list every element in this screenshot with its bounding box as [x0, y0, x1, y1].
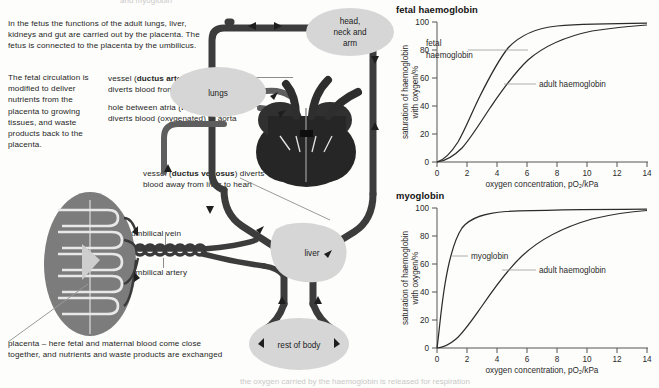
myoglobin-xtick-8: 8	[555, 355, 560, 364]
myoglobin-x-ticks	[437, 348, 647, 353]
myoglobin-y-axis-label-line1: saturation of haemoglobin	[401, 230, 410, 325]
organ-label-head-line1: head,	[340, 17, 361, 26]
myoglobin-chart-plot: 100 80 60 40 20 0 0 2 4 6 8 10 12	[396, 190, 659, 380]
vessel-umbilical-vein-to-liver	[203, 240, 256, 249]
myoglobin-y-axis-label-line2: with oxygen/%	[411, 252, 420, 306]
myoglobin-curve-label: myoglobin	[471, 252, 509, 261]
fetal-haemoglobin-chart: fetal haemoglobin 100 80 60 40 20 0	[396, 4, 659, 190]
fetal-curve-label-line1: fetal	[426, 39, 442, 48]
myoglobin-xtick-14: 14	[642, 355, 652, 364]
fetal-xtick-2: 2	[465, 169, 470, 178]
myoglobin-ytick-20: 20	[420, 316, 430, 325]
myoglobin-adult-curve-label: adult haemoglobin	[539, 266, 606, 275]
fetal-ytick-0: 0	[424, 158, 429, 167]
fetal-y-axis-label-line2: with oxygen/%	[411, 66, 420, 120]
myoglobin-ytick-60: 60	[420, 260, 430, 269]
myoglobin-y-ticks	[432, 208, 437, 348]
organ-label-liver: liver	[304, 249, 319, 258]
fetal-x-ticks	[437, 162, 647, 167]
fetal-x-axis-label: oxygen concentration, pO₂/kPa	[486, 180, 599, 189]
myoglobin-xtick-0: 0	[435, 355, 440, 364]
myoglobin-xtick-10: 10	[582, 355, 592, 364]
myoglobin-xtick-6: 6	[525, 355, 530, 364]
myoglobin-xtick-4: 4	[495, 355, 500, 364]
fetal-xtick-4: 4	[495, 169, 500, 178]
myoglobin-adult-haemoglobin-curve	[437, 211, 647, 349]
myoglobin-xtick-12: 12	[612, 355, 622, 364]
myoglobin-ytick-40: 40	[420, 288, 430, 297]
placenta-leader-line	[4, 280, 124, 350]
fetal-xtick-6: 6	[525, 169, 530, 178]
fetal-ytick-60: 60	[420, 74, 430, 83]
myoglobin-curve	[437, 209, 647, 348]
fetal-xtick-14: 14	[642, 169, 652, 178]
fetal-y-axis-label-line1: saturation of haemoglobin	[401, 44, 410, 139]
fetal-ytick-40: 40	[420, 102, 430, 111]
adult-curve-label: adult haemoglobin	[539, 80, 606, 89]
fetal-chart-plot: 100 80 60 40 20 0 0 2 4 6 8 10 12	[396, 4, 659, 190]
vessel-umbilical-artery	[203, 254, 264, 266]
organ-label-lungs: lungs	[208, 89, 228, 98]
fetal-xtick-8: 8	[555, 169, 560, 178]
fetal-haemoglobin-curve	[437, 23, 647, 162]
organ-label-head-line3: arm	[343, 39, 357, 48]
fetal-curve-label-line2: haemoglobin	[426, 51, 473, 60]
fetal-ytick-20: 20	[420, 130, 430, 139]
myoglobin-ytick-80: 80	[420, 232, 430, 241]
myoglobin-chart: myoglobin 100 80 60 40 20 0	[396, 190, 659, 380]
fetal-ytick-100: 100	[415, 18, 429, 27]
ductus-venosus-leader-line	[238, 174, 348, 226]
adult-haemoglobin-curve	[437, 25, 647, 162]
fetal-xtick-0: 0	[435, 169, 440, 178]
myoglobin-xtick-2: 2	[465, 355, 470, 364]
myoglobin-ytick-100: 100	[415, 204, 429, 213]
fetal-xtick-10: 10	[582, 169, 592, 178]
myoglobin-x-axis-label: oxygen concentration, pO₂/kPa	[486, 366, 599, 375]
organ-label-head-line2: neck and	[333, 28, 367, 37]
myoglobin-ytick-0: 0	[424, 344, 429, 353]
fetal-xtick-12: 12	[612, 169, 622, 178]
organ-label-rest-of-body: rest of body	[278, 341, 322, 350]
